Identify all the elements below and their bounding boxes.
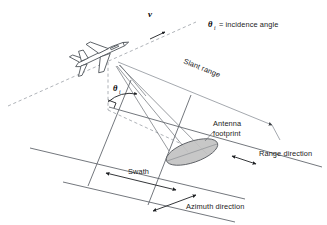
slant-range-group: Slant range <box>118 57 272 125</box>
velocity-arrow <box>150 32 165 39</box>
range-direction-label: Range direction <box>259 149 312 158</box>
antenna-footprint-label-line2: footprint <box>213 129 241 138</box>
range-direction-arrow <box>232 156 256 164</box>
beam-edge-outer <box>120 65 146 96</box>
diagram-canvas: v θ i Slant range <box>0 0 327 225</box>
legend-incidence-text: = incidence angle <box>219 20 278 29</box>
slant-range-drop-line <box>272 125 280 140</box>
nadir-line-group <box>108 62 186 146</box>
incidence-angle-legend: θ i = incidence angle <box>208 19 278 31</box>
range-direction-group: Range direction <box>232 149 312 164</box>
slant-range-line <box>118 62 272 125</box>
legend-theta-symbol: θ <box>208 19 213 29</box>
swath-edge-lines <box>88 80 191 205</box>
incidence-angle-symbol: θ <box>113 83 118 93</box>
swath-group: Swath <box>106 167 176 190</box>
sar-geometry-diagram: v θ i Slant range <box>0 0 327 225</box>
beam-center-line <box>117 66 188 152</box>
azimuth-direction-label: Azimuth direction <box>186 202 244 211</box>
legend-theta-subscript: i <box>214 25 216 31</box>
aircraft-icon <box>67 29 135 82</box>
antenna-footprint-label-line1: Antenna <box>213 119 242 128</box>
beam-edge-left <box>116 66 169 151</box>
incidence-angle-subscript: i <box>119 89 121 95</box>
slant-range-label: Slant range <box>182 57 221 80</box>
azimuth-direction-group: Azimuth direction <box>153 195 244 211</box>
velocity-label: v <box>148 9 153 19</box>
swath-label: Swath <box>128 167 149 176</box>
aircraft-nose <box>123 40 129 45</box>
